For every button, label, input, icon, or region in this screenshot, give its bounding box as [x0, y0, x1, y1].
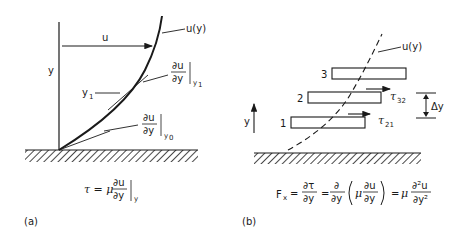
layer-label-1: 1: [280, 118, 286, 129]
svg-text:∂: ∂: [334, 180, 339, 191]
fluid-layer-1: [291, 117, 365, 128]
tangent-label-y1: ∂u ∂y y 1: [171, 60, 202, 89]
spacing-dimension: Δy: [416, 93, 444, 118]
svg-text:μ: μ: [401, 187, 408, 200]
svg-text:F: F: [276, 189, 282, 200]
caption-a: (a): [24, 216, 38, 227]
layer-label-3: 3: [321, 69, 327, 80]
svg-text:21: 21: [385, 121, 394, 129]
layer-label-2: 2: [297, 93, 303, 104]
svg-text:∂u: ∂u: [172, 60, 184, 71]
svg-text:∂u: ∂u: [364, 180, 376, 191]
svg-text:∂y: ∂y: [143, 125, 154, 136]
svg-text:∂y: ∂y: [172, 73, 183, 84]
tangent-leader-y0: [104, 125, 138, 131]
svg-text:y: y: [164, 132, 168, 140]
profile-label-b: u(y): [402, 41, 422, 52]
profile-leader-b: [378, 47, 401, 52]
panel-b: y 3 2 1 u(y) τ 32 τ 21 Δy: [242, 34, 444, 227]
tangent-line-y1: [108, 75, 148, 110]
svg-text:τ: τ: [378, 114, 385, 127]
svg-text:x: x: [283, 194, 287, 202]
profile-leader-a: [162, 29, 185, 33]
svg-text:∂u: ∂u: [143, 112, 155, 123]
wall-hatch-a: [25, 150, 198, 162]
svg-text:=: =: [321, 188, 329, 199]
svg-text:0: 0: [169, 134, 173, 142]
shear-label-32: τ 32: [390, 90, 406, 105]
svg-text:y: y: [134, 195, 138, 203]
shear-label-21: τ 21: [378, 114, 394, 129]
svg-text:Δy: Δy: [431, 101, 444, 112]
equation-b: F x = ∂τ ∂y = ∂ ∂y μ ∂u ∂y = μ ∂²u ∂y²: [276, 180, 431, 205]
fluid-layer-2: [308, 92, 381, 103]
y-axis-label-a: y: [48, 65, 54, 76]
wall-hatch-b: [254, 153, 421, 164]
velocity-label: u: [102, 32, 108, 43]
svg-text:∂²u: ∂²u: [412, 180, 428, 191]
fluid-layer-3: [332, 68, 406, 79]
svg-text:=: =: [290, 188, 298, 199]
panel-a: y u u(y) ∂u ∂y y 1 y 1 ∂u ∂y: [24, 16, 206, 227]
svg-text:∂y: ∂y: [303, 193, 314, 204]
svg-text:∂τ: ∂τ: [303, 180, 314, 191]
svg-text:32: 32: [397, 97, 406, 105]
velocity-profile-diagram: y u u(y) ∂u ∂y y 1 y 1 ∂u ∂y: [0, 0, 468, 242]
svg-text:∂y: ∂y: [364, 193, 375, 204]
svg-text:=: =: [391, 188, 399, 199]
svg-text:∂u: ∂u: [113, 177, 125, 188]
svg-text:∂y²: ∂y²: [413, 194, 428, 205]
y-axis-label-b: y: [244, 116, 250, 127]
svg-text:μ: μ: [355, 187, 362, 200]
equation-a: τ = μ ∂u ∂y y: [84, 177, 138, 203]
tangent-label-y0: ∂u ∂y y 0: [142, 112, 173, 142]
caption-b: (b): [242, 216, 256, 227]
svg-text:∂y: ∂y: [113, 190, 124, 201]
profile-label-a: u(y): [186, 23, 206, 34]
y1-label: y: [82, 87, 88, 98]
svg-text:∂y: ∂y: [331, 193, 342, 204]
svg-text:y: y: [193, 79, 197, 87]
svg-text:τ = μ: τ = μ: [84, 183, 113, 196]
svg-text:1: 1: [198, 81, 202, 89]
y1-sub: 1: [89, 93, 93, 101]
svg-text:τ: τ: [390, 90, 397, 103]
